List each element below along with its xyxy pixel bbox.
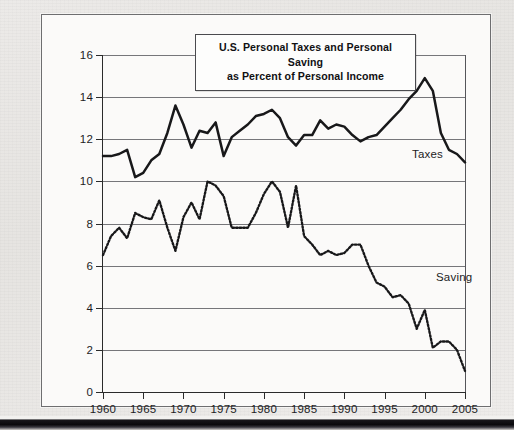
y-tick-label: 4 <box>86 302 93 314</box>
x-tick <box>385 392 386 399</box>
series-layer <box>103 55 465 392</box>
y-tick <box>96 181 103 182</box>
x-tick-label: 1990 <box>331 403 357 415</box>
y-tick <box>96 97 103 98</box>
y-tick <box>96 350 103 351</box>
scanned-page: U.S. Personal Taxes and Personal Saving … <box>0 0 514 430</box>
x-tick <box>304 392 305 399</box>
figure-frame: U.S. Personal Taxes and Personal Saving … <box>41 14 491 407</box>
x-tick-label: 2000 <box>412 403 438 415</box>
series-line-taxes <box>103 78 465 177</box>
x-tick-label: 1970 <box>170 403 196 415</box>
x-tick <box>103 392 104 399</box>
chart-title-box: U.S. Personal Taxes and Personal Saving … <box>195 34 416 91</box>
y-tick <box>96 139 103 140</box>
y-tick <box>96 55 103 56</box>
taxes-series-label: Taxes <box>412 148 443 160</box>
y-tick-label: 6 <box>86 260 93 272</box>
x-tick <box>183 392 184 399</box>
x-tick-label: 1980 <box>251 403 277 415</box>
x-tick <box>344 392 345 399</box>
x-tick-label: 2005 <box>452 403 478 415</box>
y-tick-label: 10 <box>80 175 93 187</box>
y-tick <box>96 224 103 225</box>
y-tick-label: 14 <box>80 91 93 103</box>
y-tick-label: 8 <box>86 218 93 230</box>
y-tick-label: 2 <box>86 344 93 356</box>
x-tick-label: 1985 <box>291 403 317 415</box>
x-tick <box>143 392 144 399</box>
x-tick-label: 1960 <box>90 403 116 415</box>
x-tick <box>264 392 265 399</box>
page-edge-shadow <box>0 416 514 430</box>
chart-title-line-1: U.S. Personal Taxes and Personal Saving <box>202 40 409 69</box>
plot-area: 0246810121416 19601965197019751980198519… <box>102 55 466 393</box>
x-tick <box>224 392 225 399</box>
chart-title-line-2: as Percent of Personal Income <box>202 69 409 84</box>
x-tick-label: 1965 <box>130 403 156 415</box>
y-tick-label: 0 <box>86 386 93 398</box>
x-tick-label: 1975 <box>210 403 236 415</box>
y-tick-label: 16 <box>80 49 93 61</box>
y-tick-label: 12 <box>80 133 93 145</box>
series-line-saving <box>103 181 465 371</box>
saving-series-label: Saving <box>436 271 472 283</box>
x-tick-label: 1995 <box>371 403 397 415</box>
x-tick <box>425 392 426 399</box>
y-tick <box>96 266 103 267</box>
y-tick <box>96 392 103 393</box>
x-tick <box>465 392 466 399</box>
y-tick <box>96 308 103 309</box>
